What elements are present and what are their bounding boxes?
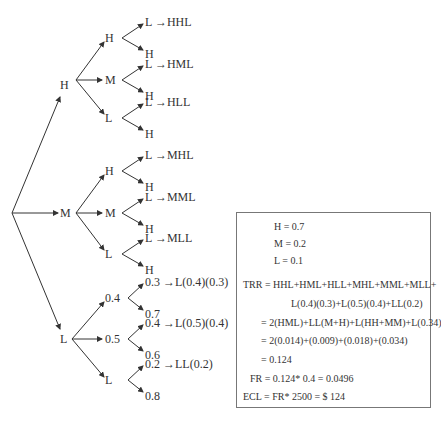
node-level2-m-0: H [105, 164, 114, 178]
node-level2-l-0: 0.4 [105, 291, 120, 305]
node-level2-h-2: L [105, 111, 112, 125]
node-level2-l-2: L [105, 373, 112, 387]
trr-line-3: = 2(HML)+LL(M+H)+L(HH+MM)+L(0.34) [261, 317, 441, 328]
trr-line-1: TRR = HHL+HML+HLL+MHL+MML+MLL+ [243, 279, 436, 290]
node-level2-h-1: M [105, 73, 116, 87]
calculation-box: H = 0.7 M = 0.2 L = 0.1 TRR = HHL+HML+HL… [236, 212, 431, 408]
prob-l: L = 0.1 [274, 255, 303, 266]
leaf-top-1: L →HML [145, 57, 194, 71]
prob-m: M = 0.2 [274, 238, 306, 249]
trr-line-4: = 2(0.014)+(0.009)+(0.018)+(0.034) [261, 335, 408, 346]
leaf-bottom-2: H [145, 127, 154, 141]
ecl-line: ECL = FR* 2500 = $ 124 [243, 391, 345, 402]
node-level1-m: M [60, 206, 71, 220]
node-level1-l: L [60, 332, 67, 346]
prob-h: H = 0.7 [274, 221, 304, 232]
node-level2-m-1: M [105, 206, 116, 220]
leaf-top-4: L →MML [145, 190, 196, 204]
node-level2-h-0: H [105, 31, 114, 45]
leaf-top-8: 0.2 →LL(0.2) [145, 357, 213, 371]
node-level2-m-2: L [105, 247, 112, 261]
leaf-bottom-8: 0.8 [145, 389, 160, 403]
fr-line: FR = 0.124* 0.4 = 0.0496 [250, 373, 354, 384]
leaf-top-3: L →MHL [145, 148, 194, 162]
trr-line-2: L(0.4)(0.3)+L(0.5)(0.4)+LL(0.2) [291, 298, 423, 309]
leaf-top-2: L →HLL [145, 95, 190, 109]
leaf-top-7: 0.4 →L(0.5)(0.4) [145, 316, 228, 330]
leaf-top-5: L →MLL [145, 231, 192, 245]
node-level1-h: H [60, 78, 69, 92]
leaf-top-6: 0.3 →L(0.4)(0.3) [145, 275, 228, 289]
trr-line-5: = 0.124 [261, 354, 292, 365]
node-level2-l-1: 0.5 [105, 332, 120, 346]
leaf-top-0: L →HHL [145, 15, 192, 29]
